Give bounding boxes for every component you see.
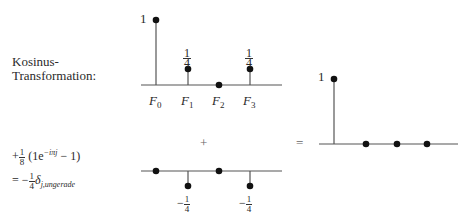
tick-subscript: 0 [157,100,162,110]
top-stem-chart [141,17,282,89]
fraction-quarter: 14 [184,195,191,214]
plus-operator: + [200,135,207,151]
bottom-dot-2 [216,168,223,175]
top-dot-f2 [216,82,223,89]
result-dot-2 [394,141,401,148]
tick-label-f0: F0 [149,93,161,110]
result-dot-3 [424,141,431,148]
equals-operator: = [296,135,303,151]
top-value-label-f1: 14 [183,48,191,68]
tick-label-f1: F1 [181,93,193,110]
denominator: 4 [183,59,191,68]
denominator: 4 [245,59,253,68]
bottom-value-label-3: −14 [239,195,252,214]
bottom-dot-1 [185,183,192,190]
minus-sign: − [177,196,184,210]
tick-name: F [212,93,220,108]
bottom-stem-chart [141,168,282,190]
fraction-quarter: 14 [246,195,253,214]
bottom-dot-0 [153,168,160,175]
result-value-label-one: 1 [318,70,325,84]
result-dot-0 [331,76,338,83]
tick-label-f3: F3 [243,93,255,110]
minus-sign: − [239,196,246,210]
top-dot-f0 [153,17,160,24]
tick-label-f2: F2 [212,93,224,110]
fraction-quarter: 14 [245,49,253,68]
top-value-label-f3: 14 [245,48,253,68]
tick-name: F [181,93,189,108]
tick-subscript: 3 [251,100,256,110]
fraction-quarter: 14 [183,49,191,68]
tick-name: F [243,93,251,108]
top-value-label-one: 1 [140,12,147,26]
tick-subscript: 2 [220,100,225,110]
bottom-dot-3 [247,183,254,190]
bottom-value-label-1: −14 [177,195,190,214]
denominator: 4 [184,205,191,214]
tick-subscript: 1 [189,100,194,110]
result-stem-chart [319,76,458,148]
result-dot-1 [363,141,370,148]
tick-name: F [149,93,157,108]
denominator: 4 [246,205,253,214]
stem-plots [0,0,468,222]
